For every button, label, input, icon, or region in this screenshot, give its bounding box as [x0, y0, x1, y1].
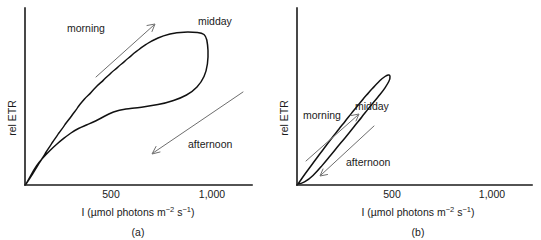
panel-a-xtick-1000: 1,000 [199, 188, 225, 200]
figure-two-panel-light-response: morning midday afternoon 500 1,000 I (µm… [0, 0, 541, 240]
panel-b-plot: morning midday afternoon 500 1,000 I (µm… [270, 0, 541, 240]
panel-a-morning-label: morning [67, 22, 105, 34]
panel-b-y-axis-title: rel ETR [278, 100, 290, 136]
panel-b: morning midday afternoon 500 1,000 I (µm… [270, 0, 541, 240]
panel-b-afternoon-arrow [320, 126, 374, 176]
panel-a-afternoon-label: afternoon [188, 138, 233, 150]
panel-b-morning-label: morning [303, 109, 341, 121]
panel-b-x-axis-title: I (µmol photons m−2 s−1) [361, 205, 474, 218]
panel-a-y-axis-title: rel ETR [6, 100, 18, 136]
panel-a-caption: (a) [132, 226, 145, 238]
panel-a-midday-label: midday [198, 15, 233, 27]
panel-b-xtick-1000: 1,000 [479, 188, 505, 200]
panel-a-x-axis-title: I (µmol photons m−2 s−1) [81, 205, 194, 218]
panel-b-afternoon-label: afternoon [346, 156, 391, 168]
panel-b-midday-label: midday [355, 100, 390, 112]
panel-a-hysteresis-loop [26, 32, 208, 184]
panel-b-xtick-500: 500 [383, 188, 401, 200]
panel-a-plot: morning midday afternoon 500 1,000 I (µm… [0, 0, 270, 240]
panel-b-caption: (b) [412, 226, 425, 238]
panel-a: morning midday afternoon 500 1,000 I (µm… [0, 0, 270, 240]
panel-a-xtick-500: 500 [102, 188, 120, 200]
